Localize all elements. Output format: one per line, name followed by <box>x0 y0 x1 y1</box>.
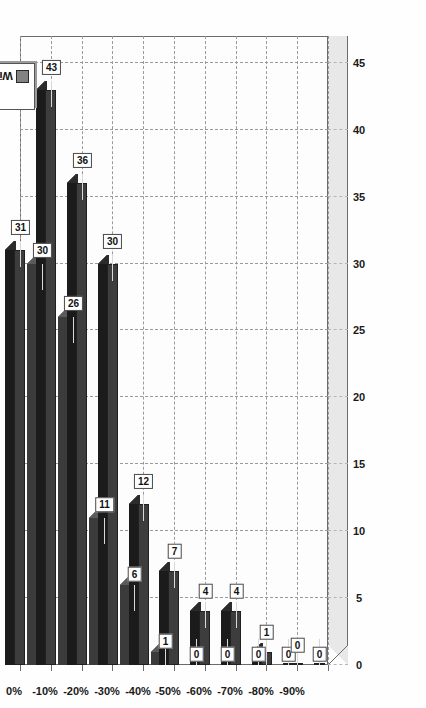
data-label: 0 <box>313 647 327 662</box>
label-leader-line <box>112 255 113 281</box>
value-tick-label: 40 <box>347 124 371 136</box>
chart-legend: All TradesWinning Trades <box>0 63 35 110</box>
label-leader-line <box>104 518 105 544</box>
category-axis-labels: 0%-10%-20%-30%-40%-50%-60%-70%-80%-90% <box>20 665 328 708</box>
data-label: 1 <box>260 624 274 639</box>
data-label: 26 <box>64 296 83 311</box>
floor-tick <box>328 396 348 397</box>
floor-tick <box>328 530 348 531</box>
floor-tick <box>328 329 348 330</box>
floor-ticks <box>328 36 348 665</box>
value-tick-label: 5 <box>347 592 371 604</box>
data-label: 0 <box>251 647 265 662</box>
data-label: 7 <box>168 544 182 559</box>
value-tick-label: 30 <box>347 258 371 270</box>
data-label: 43 <box>42 59 61 74</box>
floor-tick <box>328 62 348 63</box>
data-label: 0 <box>291 638 305 653</box>
chart-root: 0%-10%-20%-30%-40%-50%-60%-70%-80%-90% 0… <box>0 0 426 708</box>
data-label: 36 <box>72 153 91 168</box>
label-leader-line <box>82 174 83 200</box>
data-label: 0 <box>220 647 234 662</box>
label-leader-line <box>51 81 52 107</box>
data-label: 30 <box>103 233 122 248</box>
label-leader-line <box>236 602 237 628</box>
category-axis-label: -90% <box>272 685 312 697</box>
chart-stage: 0%-10%-20%-30%-40%-50%-60%-70%-80%-90% 0… <box>0 0 426 708</box>
value-tick-label: 25 <box>347 324 371 336</box>
data-label: 12 <box>134 474 153 489</box>
label-leader-line <box>266 639 267 665</box>
data-label: 4 <box>229 584 243 599</box>
data-label: 1 <box>159 633 173 648</box>
data-label: 11 <box>95 497 114 512</box>
data-label: 6 <box>128 566 142 581</box>
floor-tick <box>328 196 348 197</box>
value-tick-label: 20 <box>347 391 371 403</box>
label-leader-line <box>42 264 43 290</box>
floor-tick <box>328 664 348 665</box>
floor-tick <box>328 463 348 464</box>
label-leader-line <box>73 317 74 343</box>
data-label: 4 <box>198 584 212 599</box>
data-label: 0 <box>190 647 204 662</box>
category-tick <box>328 665 329 671</box>
legend-entry[interactable]: Winning Trades <box>0 70 29 83</box>
label-leader-line <box>205 602 206 628</box>
data-labels-layer: 3031264311366301120704040100 <box>20 36 328 665</box>
value-tick-label: 0 <box>347 659 371 671</box>
data-label: 30 <box>33 242 52 257</box>
legend-label: Winning Trades <box>0 71 13 83</box>
bar-top-face <box>5 241 14 665</box>
floor-tick <box>328 597 348 598</box>
data-label: 31 <box>11 220 30 235</box>
bar-side-face <box>5 241 16 250</box>
label-leader-line <box>134 585 135 611</box>
label-leader-line <box>143 495 144 521</box>
floor-tick <box>328 129 348 130</box>
value-tick-label: 10 <box>347 525 371 537</box>
legend-swatch <box>16 70 29 83</box>
value-tick-label: 35 <box>347 191 371 203</box>
value-axis-labels: 051015202530354045 <box>350 36 380 665</box>
value-tick-label: 45 <box>347 57 371 69</box>
label-leader-line <box>20 241 21 267</box>
label-leader-line <box>174 562 175 588</box>
value-tick-label: 15 <box>347 458 371 470</box>
floor-tick <box>328 263 348 264</box>
